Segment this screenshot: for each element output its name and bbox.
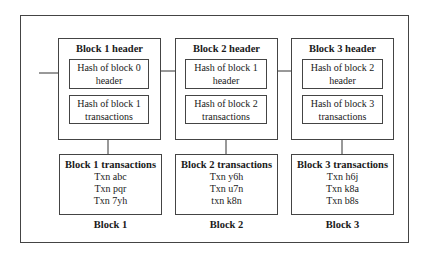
txn-item: Txn u7n <box>176 183 277 195</box>
tx-hash-text: Hash of block 1 <box>77 98 141 109</box>
txn-item: Txn abc <box>60 171 161 183</box>
block-2-tx-hash: Hash of block 2transactions <box>185 95 267 124</box>
prev-hash-text: Hash of block 1 <box>194 62 258 73</box>
block-2-prev-hash: Hash of block 1header <box>185 59 267 89</box>
block-3-header-title: Block 3 header <box>292 43 393 54</box>
tx-title: Block 1 transactions <box>60 159 161 171</box>
block-3-label: Block 3 <box>291 219 394 230</box>
block-2-header-title: Block 2 header <box>176 43 277 54</box>
block-3-prev-hash: Hash of block 2header <box>302 59 383 89</box>
txn-item: Txn b8s <box>292 195 393 207</box>
prev-hash-text: header <box>96 75 123 86</box>
block-1-label: Block 1 <box>59 219 162 230</box>
txn-item: Txn k8a <box>292 183 393 195</box>
block-1-prev-hash: Hash of block 0header <box>69 59 149 89</box>
tx-hash-text: transactions <box>319 111 367 122</box>
block-1-transactions: Block 1 transactions Txn abc Txn pqr Txn… <box>59 154 162 215</box>
tx-title: Block 2 transactions <box>176 159 277 171</box>
prev-hash-text: Hash of block 2 <box>311 62 375 73</box>
txn-item: Txn pqr <box>60 183 161 195</box>
block-3-header: Block 3 header <box>291 38 394 140</box>
tx-hash-text: transactions <box>85 111 133 122</box>
txn-item: Txn y6h <box>176 171 277 183</box>
txn-item: Txn h6j <box>292 171 393 183</box>
block-2-label: Block 2 <box>175 219 278 230</box>
prev-hash-text: Hash of block 0 <box>77 62 141 73</box>
block-3-transactions: Block 3 transactions Txn h6j Txn k8a Txn… <box>291 154 394 215</box>
prev-hash-text: header <box>213 75 240 86</box>
block-3-tx-hash: Hash of block 3transactions <box>302 95 383 124</box>
tx-title: Block 3 transactions <box>292 159 393 171</box>
block-2-transactions: Block 2 transactions Txn y6h Txn u7n txn… <box>175 154 278 215</box>
txn-item: Txn 7yh <box>60 195 161 207</box>
tx-hash-text: transactions <box>202 111 250 122</box>
prev-hash-text: header <box>329 75 356 86</box>
tx-hash-text: Hash of block 2 <box>194 98 258 109</box>
txn-item: txn k8n <box>176 195 277 207</box>
tx-hash-text: Hash of block 3 <box>311 98 375 109</box>
block-2-header: Block 2 header <box>175 38 278 140</box>
block-1-header: Block 1 header <box>58 38 161 140</box>
block-1-header-title: Block 1 header <box>59 43 160 54</box>
block-1-tx-hash: Hash of block 1transactions <box>69 95 149 124</box>
